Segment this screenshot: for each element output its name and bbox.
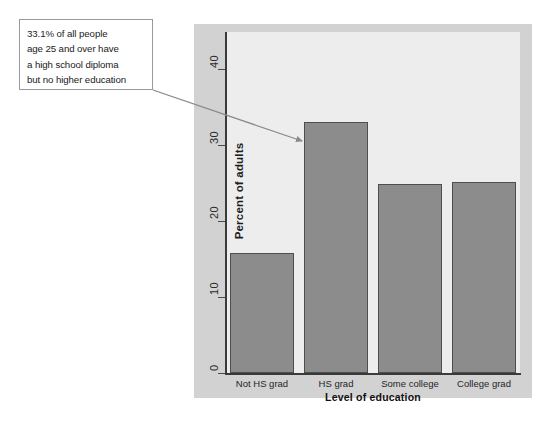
y-tick-mark (218, 373, 225, 374)
x-tick-label: HS grad (299, 378, 373, 389)
bar (304, 122, 368, 373)
y-tick-mark (218, 297, 225, 298)
x-tick-label: Some college (373, 378, 447, 389)
x-axis-line (225, 373, 521, 375)
x-tick-label: Not HS grad (225, 378, 299, 389)
x-tick-label: College grad (447, 378, 521, 389)
bar (452, 182, 516, 373)
bar (230, 253, 294, 373)
annotation-text: 33.1% of all people age 25 and over have… (27, 26, 146, 88)
x-axis-title: Level of education (225, 391, 521, 403)
y-axis-line (225, 32, 227, 374)
y-tick-mark (218, 221, 225, 222)
y-tick-mark (218, 69, 225, 70)
bar (378, 184, 442, 373)
annotation-callout: 33.1% of all people age 25 and over have… (19, 19, 153, 90)
y-axis-title: Percent of adults (233, 143, 245, 240)
y-tick-mark (218, 145, 225, 146)
